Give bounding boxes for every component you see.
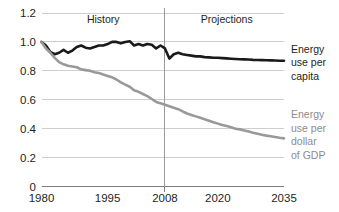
energy-intensity-line-chart: 00.20.40.60.81.01.2 19801995200820202035… (0, 0, 339, 212)
x-axis-tick-labels: 19801995200820202035 (29, 192, 297, 204)
x-tick-label-2008: 2008 (152, 192, 178, 204)
y-tick-label-0.6: 0.6 (20, 94, 36, 106)
series-line-energy-per-dollar-gdp (42, 42, 285, 138)
x-tick-label-1980: 1980 (29, 192, 55, 204)
x-tick-label-1995: 1995 (95, 192, 121, 204)
y-tick-label-0.8: 0.8 (20, 65, 36, 77)
series-label-energy-per-dollar-gdp-line-1: Energy (291, 108, 325, 120)
y-tick-label-0: 0 (30, 181, 36, 193)
series-label-energy-per-dollar-gdp-line-3: dollar (291, 135, 317, 147)
chart-container: 00.20.40.60.81.01.2 19801995200820202035… (0, 0, 339, 212)
y-tick-label-1.2: 1.2 (20, 7, 36, 19)
history-label: History (87, 13, 120, 25)
y-tick-label-0.4: 0.4 (20, 123, 37, 135)
projections-label: Projections (201, 13, 253, 25)
y-tick-label-0.2: 0.2 (20, 152, 36, 164)
y-tick-label-1.0: 1.0 (20, 36, 36, 48)
series-label-energy-per-dollar-gdp-line-2: use per (291, 122, 327, 134)
period-labels-group: HistoryProjections (87, 13, 253, 25)
y-axis-tick-labels: 00.20.40.60.81.01.2 (20, 7, 37, 193)
series-label-energy-per-capita-line-2: use per (291, 56, 327, 68)
series-label-energy-per-capita-line-3: capita (291, 70, 319, 82)
x-tick-label-2020: 2020 (205, 192, 231, 204)
series-label-energy-per-capita-line-1: Energy (291, 43, 325, 55)
series-label-energy-per-dollar-gdp-line-4: of GDP (291, 149, 325, 161)
series-annotation-labels: Energyuse percapitaEnergyuse perdollarof… (291, 43, 327, 161)
x-tick-label-2035: 2035 (271, 192, 297, 204)
series-line-energy-per-capita (42, 41, 285, 61)
gridlines-group (42, 13, 285, 158)
series-lines-group (42, 41, 285, 138)
